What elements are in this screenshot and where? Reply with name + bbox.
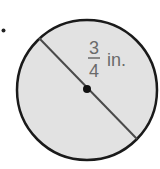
problem-bullet	[2, 29, 6, 33]
fraction-numerator: 3	[89, 38, 99, 58]
diagram-canvas: 3 4 in.	[0, 0, 160, 169]
fraction-denominator: 4	[89, 61, 99, 81]
center-point	[83, 85, 91, 93]
circle-diagram: 3 4 in.	[0, 0, 160, 169]
unit-label: in.	[107, 50, 126, 70]
